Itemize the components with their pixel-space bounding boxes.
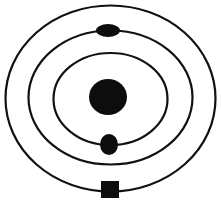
particle-bottom-oval	[100, 134, 118, 155]
particle-top-oval	[96, 24, 120, 37]
particle-bottom-square	[101, 181, 119, 198]
nucleus	[89, 79, 127, 115]
atom-diagram	[0, 0, 221, 201]
